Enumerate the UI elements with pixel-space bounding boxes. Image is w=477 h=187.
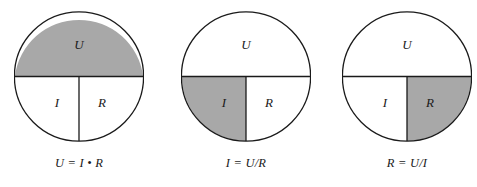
circle-current-svg <box>181 11 311 142</box>
label-u: U <box>236 37 256 53</box>
circle-resistance: U I R <box>342 11 472 142</box>
label-r: R <box>92 95 112 111</box>
label-r: R <box>259 95 279 111</box>
label-u: U <box>397 37 417 53</box>
label-r: R <box>420 95 440 111</box>
circle-resistance-svg <box>342 11 472 142</box>
diagram-voltage: U I R U = I • R <box>14 0 144 187</box>
circle-voltage-svg <box>14 11 144 142</box>
circle-voltage: U I R <box>14 11 144 142</box>
label-i: I <box>375 95 395 111</box>
label-u: U <box>69 37 89 53</box>
diagram-current: U I R I = U/R <box>181 0 311 187</box>
ohms-law-figure: U I R U = I • R U I R I = U/R <box>0 0 477 187</box>
circle-current: U I R <box>181 11 311 142</box>
caption-voltage: U = I • R <box>14 156 144 171</box>
diagram-resistance: U I R R = U/I <box>342 0 472 187</box>
caption-current: I = U/R <box>181 156 311 171</box>
label-i: I <box>47 95 67 111</box>
caption-resistance: R = U/I <box>342 156 472 171</box>
label-i: I <box>214 95 234 111</box>
